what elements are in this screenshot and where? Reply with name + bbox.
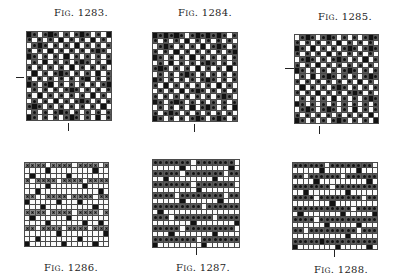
grid-cell bbox=[224, 160, 228, 165]
grid-cell bbox=[27, 110, 31, 115]
grid-cell bbox=[229, 182, 233, 187]
grid-cell bbox=[363, 68, 367, 73]
grid-cell bbox=[227, 72, 231, 77]
grid-cell bbox=[43, 43, 47, 48]
grid-cell bbox=[206, 100, 210, 105]
grid-cell bbox=[104, 195, 108, 199]
grid-cell bbox=[153, 89, 157, 94]
grid-cell bbox=[300, 91, 304, 96]
grid-cell bbox=[207, 221, 211, 226]
grid-cell bbox=[197, 243, 201, 248]
grid-cell bbox=[351, 228, 355, 232]
grid-cell bbox=[217, 100, 221, 105]
grid-cell bbox=[369, 118, 373, 123]
grid-cell bbox=[169, 215, 173, 220]
grid-cell bbox=[107, 43, 111, 48]
grid-cell bbox=[213, 221, 217, 226]
grid-cell bbox=[38, 93, 42, 98]
grid-cell bbox=[164, 72, 168, 77]
grid-cell bbox=[196, 33, 200, 38]
grid-cell bbox=[27, 60, 31, 65]
grid-cell bbox=[298, 179, 302, 183]
grid-cell bbox=[325, 234, 329, 238]
grid-cell bbox=[298, 217, 302, 221]
grid-cell bbox=[164, 83, 168, 88]
grid-cell bbox=[101, 104, 105, 109]
grid-cell bbox=[32, 54, 36, 59]
grid-cell bbox=[101, 65, 105, 70]
grid-cell bbox=[78, 174, 82, 178]
grid-cell bbox=[358, 63, 362, 68]
grid-cell bbox=[164, 105, 168, 110]
grid-cell bbox=[229, 166, 233, 171]
grid-cell bbox=[27, 43, 31, 48]
grid-cell bbox=[54, 65, 58, 70]
grid-cell bbox=[57, 226, 61, 230]
grid-cell bbox=[191, 237, 195, 242]
grid-cell bbox=[201, 39, 205, 44]
grid-cell bbox=[298, 190, 302, 194]
grid-cell bbox=[218, 160, 222, 165]
grid-cell bbox=[321, 46, 325, 51]
grid-cell bbox=[217, 50, 221, 55]
grid-cell bbox=[46, 216, 50, 220]
grid-cell bbox=[362, 163, 366, 167]
figure-caption-1285: FIG. 1285. bbox=[318, 11, 372, 22]
grid-cell bbox=[202, 160, 206, 165]
grid-cell bbox=[174, 72, 178, 77]
grid-cell bbox=[85, 54, 89, 59]
grid-cell bbox=[362, 179, 366, 183]
grid-cell bbox=[104, 189, 108, 193]
grid-cell bbox=[217, 105, 221, 110]
grid-cell bbox=[54, 99, 58, 104]
grid-cell bbox=[346, 217, 350, 221]
grid-cell bbox=[213, 160, 217, 165]
grid-cell bbox=[70, 88, 74, 93]
grid-cell bbox=[353, 80, 357, 85]
grid-cell bbox=[93, 237, 97, 241]
grid-cell bbox=[158, 193, 162, 198]
grid-cell bbox=[93, 221, 97, 225]
grid-cell bbox=[30, 231, 34, 235]
grid-cell bbox=[72, 195, 76, 199]
grid-cell bbox=[67, 195, 71, 199]
grid-cell bbox=[180, 39, 184, 44]
grid-cell bbox=[107, 104, 111, 109]
grid-cell bbox=[298, 196, 302, 200]
grid-cell bbox=[78, 179, 82, 183]
grid-cell bbox=[235, 166, 239, 171]
grid-cell bbox=[175, 193, 179, 198]
grid-cell bbox=[80, 77, 84, 82]
grid-cell bbox=[358, 80, 362, 85]
grid-cell bbox=[218, 193, 222, 198]
grid-cell bbox=[186, 166, 190, 171]
grid-cell bbox=[36, 200, 40, 204]
grid-cell bbox=[80, 110, 84, 115]
grid-cell bbox=[304, 234, 308, 238]
grid-cell bbox=[25, 216, 29, 220]
grid-cell bbox=[25, 221, 29, 225]
grid-cell bbox=[51, 237, 55, 241]
grid-cell bbox=[41, 231, 45, 235]
grid-cell bbox=[153, 72, 157, 77]
grid-cell bbox=[158, 89, 162, 94]
grid-cell bbox=[336, 212, 340, 216]
grid-cell bbox=[321, 57, 325, 62]
grid-cell bbox=[72, 231, 76, 235]
grid-cell bbox=[304, 190, 308, 194]
grid-cell bbox=[298, 239, 302, 243]
grid-cell bbox=[83, 200, 87, 204]
grid-cell bbox=[164, 55, 168, 60]
grid-cell bbox=[293, 179, 297, 183]
grid-cell bbox=[342, 46, 346, 51]
grid-cell bbox=[180, 182, 184, 187]
weave-grid-1283 bbox=[26, 31, 112, 121]
grid-cell bbox=[367, 239, 371, 243]
grid-cell bbox=[57, 210, 61, 214]
grid-cell bbox=[342, 91, 346, 96]
grid-cell bbox=[362, 190, 366, 194]
grid-cell bbox=[211, 44, 215, 49]
grid-cell bbox=[83, 216, 87, 220]
grid-cell bbox=[330, 239, 334, 243]
grid-cell bbox=[351, 201, 355, 205]
